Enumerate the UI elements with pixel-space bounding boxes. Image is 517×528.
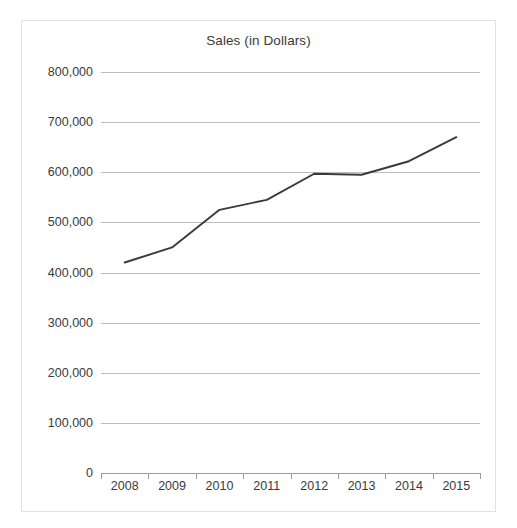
cropped-top-caption [0, 0, 517, 12]
plot-area: 0100,000200,000300,000400,000500,000600,… [22, 21, 497, 513]
series-line-sales [125, 137, 457, 262]
series-layer [22, 21, 497, 513]
screenshot-root: Sales (in Dollars) 0100,000200,000300,00… [0, 0, 517, 528]
chart-card: Sales (in Dollars) 0100,000200,000300,00… [21, 20, 496, 512]
